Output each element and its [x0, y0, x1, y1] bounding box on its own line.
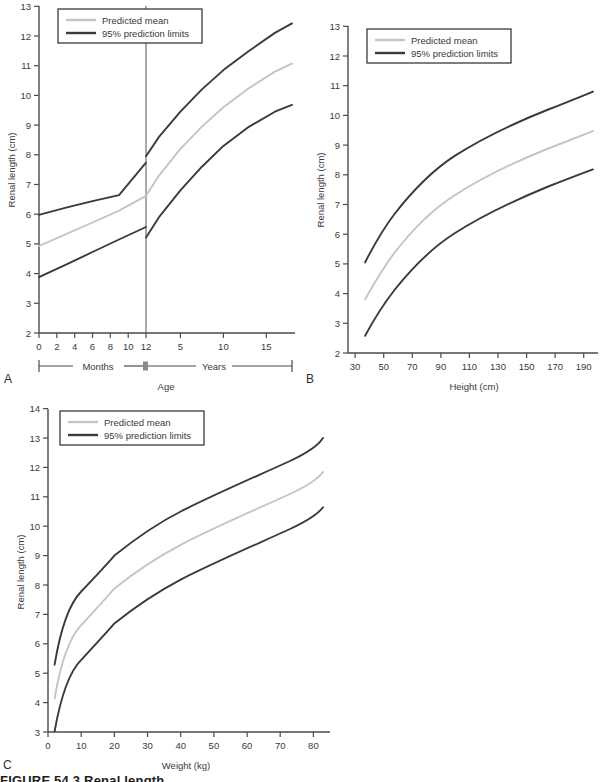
panel-c-xtick-7: 70	[275, 740, 286, 751]
panel-a-xtick-y15: 15	[261, 341, 272, 352]
panel-b-legend: Predicted mean 95% prediction limits	[367, 29, 511, 63]
panel-a-ytick-3: 5	[26, 238, 31, 249]
panel-b-legend-mean-label: Predicted mean	[411, 35, 478, 46]
panel-b-ytick-0: 2	[335, 348, 340, 359]
panel-c-upper-limit	[55, 438, 323, 665]
panel-b-x-ticks: 30 50 70 90 110 130 150 170 190	[350, 353, 592, 372]
panel-c-xtick-2: 20	[109, 740, 120, 751]
panel-a-ytick-0: 2	[26, 328, 31, 339]
chart-panel-a: 2 3 4 5 6 7 8 9 10 11 12 13 Renal length…	[0, 0, 302, 400]
panel-c-svg: 3 4 5 6 7 8 9 10 11 12 13 14 Renal lengt…	[0, 392, 370, 782]
panel-b-lower-limit	[365, 169, 593, 335]
panel-b-ytick-11: 13	[329, 21, 340, 32]
panel-c-xtick-8: 80	[308, 740, 319, 751]
panel-b-ytick-10: 12	[329, 51, 340, 62]
panel-b-letter: B	[306, 372, 314, 386]
panel-c-ytick-11: 14	[29, 403, 40, 414]
panel-a-ytick-10: 12	[20, 31, 31, 42]
panel-b-ytick-1: 3	[335, 318, 340, 329]
panel-a-xtick-m8: 8	[108, 341, 113, 352]
panel-b-ytick-7: 9	[335, 140, 340, 151]
panel-a-lower-limit-years	[146, 105, 292, 238]
panel-a-lower-limit-months	[39, 227, 146, 277]
panel-a-y-axis-label: Renal length (cm)	[6, 133, 17, 208]
panel-a-xtick-m0: 0	[36, 341, 41, 352]
panel-a-mean-months	[39, 196, 146, 246]
panel-c-xtick-5: 50	[209, 740, 220, 751]
panel-a-upper-limit-months	[39, 163, 146, 215]
panel-a-ytick-2: 4	[26, 268, 31, 279]
panel-c-letter: C	[3, 758, 12, 772]
panel-a-xtick-m12: 12	[141, 341, 152, 352]
panel-c-y-axis-label: Renal length (cm)	[15, 535, 26, 610]
panel-c-ytick-8: 11	[30, 491, 40, 502]
panel-a-xtick-y10: 10	[218, 341, 229, 352]
panel-c-x-axis-label: Weight (kg)	[162, 760, 210, 771]
panel-b-ytick-3: 5	[335, 258, 340, 269]
panel-c-ytick-7: 10	[29, 521, 40, 532]
panel-a-ytick-4: 6	[26, 209, 31, 220]
panel-c-ytick-9: 12	[29, 462, 40, 473]
panel-b-xtick-2: 70	[407, 361, 418, 372]
panel-a-ytick-9: 11	[21, 60, 31, 71]
panel-a-ytick-6: 8	[26, 149, 31, 160]
panel-c-ytick-1: 4	[35, 697, 40, 708]
panel-c-xtick-3: 30	[142, 740, 153, 751]
panel-b-ytick-4: 6	[335, 229, 340, 240]
panel-c-ytick-10: 13	[29, 433, 40, 444]
panel-c-x-ticks: 0 10 20 30 40 50 60 70 80	[45, 732, 318, 751]
panel-c-ytick-4: 7	[35, 609, 40, 620]
panel-c-mean	[55, 472, 323, 699]
panel-c-y-ticks: 3 4 5 6 7 8 9 10 11 12 13 14	[29, 403, 48, 737]
panel-b-xtick-8: 190	[576, 361, 592, 372]
chart-panel-c: 3 4 5 6 7 8 9 10 11 12 13 14 Renal lengt…	[0, 392, 370, 782]
panel-a-y-ticks: 2 3 4 5 6 7 8 9 10 11 12 13	[20, 1, 39, 339]
panel-a-xtick-m4: 4	[72, 341, 77, 352]
panel-b-xtick-0: 30	[350, 361, 361, 372]
panel-b-ytick-6: 8	[335, 169, 340, 180]
panel-b-y-axis-label: Renal length (cm)	[315, 153, 326, 228]
panel-a-legend-limits-label: 95% prediction limits	[102, 28, 189, 39]
panel-b-xtick-3: 90	[436, 361, 447, 372]
panel-a-ytick-7: 9	[26, 120, 31, 131]
panel-b-legend-limits-label: 95% prediction limits	[411, 48, 498, 59]
panel-a-ytick-5: 7	[26, 179, 31, 190]
panel-c-ytick-6: 9	[35, 550, 40, 561]
panel-a-letter: A	[4, 372, 12, 386]
panel-b-y-ticks: 2 3 4 5 6 7 8 9 10 11 12 13	[329, 21, 348, 359]
panel-b-xtick-4: 110	[462, 361, 477, 372]
chart-panel-b: 2 3 4 5 6 7 8 9 10 11 12 13 Renal length…	[302, 0, 604, 400]
panel-a-age-brackets	[39, 360, 292, 372]
panel-b-svg: 2 3 4 5 6 7 8 9 10 11 12 13 Renal length…	[302, 0, 604, 400]
panel-a-svg: 2 3 4 5 6 7 8 9 10 11 12 13 Renal length…	[0, 0, 302, 400]
panel-a-legend-mean-label: Predicted mean	[102, 15, 169, 26]
panel-c-ytick-2: 5	[35, 668, 40, 679]
panel-b-xtick-1: 50	[378, 361, 389, 372]
panel-a-xtick-m10: 10	[123, 341, 134, 352]
panel-c-xtick-4: 40	[175, 740, 186, 751]
figure-caption: FIGURE 54.3 Renal length	[0, 773, 604, 782]
panel-a-xtick-m6: 6	[90, 341, 95, 352]
panel-a-legend: Predicted mean 95% prediction limits	[58, 9, 202, 43]
panel-c-legend-limits-label: 95% prediction limits	[104, 430, 191, 441]
panel-a-x-ticks: 0 2 4 6 8 10 12 5 10 15	[36, 333, 271, 352]
panel-b-ytick-2: 4	[335, 288, 340, 299]
panel-c-legend-mean-label: Predicted mean	[104, 417, 171, 428]
panel-a-x-axis-label: Age	[158, 381, 175, 392]
panel-c-xtick-1: 10	[76, 740, 87, 751]
panel-b-ytick-9: 11	[330, 80, 340, 91]
panel-a-mean-years	[146, 64, 292, 196]
panel-c-ytick-0: 3	[35, 727, 40, 738]
panel-a-xtick-m2: 2	[54, 341, 59, 352]
panel-b-xtick-7: 170	[547, 361, 563, 372]
panel-c-ytick-5: 8	[35, 580, 40, 591]
panel-a-months-bracket-label: Months	[82, 361, 113, 372]
panel-b-xtick-5: 130	[490, 361, 506, 372]
panel-b-ytick-5: 7	[335, 199, 340, 210]
panel-b-upper-limit	[365, 92, 593, 263]
panel-b-ytick-8: 10	[329, 110, 340, 121]
panel-a-ytick-1: 3	[26, 298, 31, 309]
panel-a-xtick-y5: 5	[178, 341, 183, 352]
panel-b-xtick-6: 150	[519, 361, 535, 372]
panel-b-mean	[365, 131, 593, 299]
